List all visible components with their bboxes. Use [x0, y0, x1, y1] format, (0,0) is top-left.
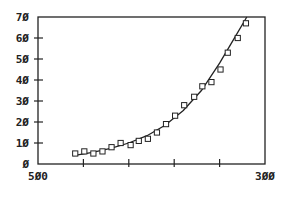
y-axis: Ø1Ø2Ø3Ø4Ø5Ø6Ø7Ø	[16, 11, 43, 171]
data-point-marker	[82, 149, 87, 154]
scatter-chart: Ø1Ø2Ø3Ø4Ø5Ø6Ø7Ø 5Ø03ØØ	[0, 0, 287, 210]
data-point-marker	[218, 67, 223, 72]
data-point-marker	[192, 94, 197, 99]
data-point-marker	[91, 151, 96, 156]
data-point-marker	[109, 145, 114, 150]
y-tick-label: 5Ø	[16, 53, 30, 66]
data-point-marker	[73, 151, 78, 156]
y-tick-label: 1Ø	[16, 137, 30, 150]
data-point-marker	[128, 143, 133, 148]
data-point-marker	[200, 84, 205, 89]
data-point-marker	[154, 130, 159, 135]
plot-border	[38, 17, 265, 164]
fitted-curve	[73, 17, 246, 156]
y-tick-label: 4Ø	[16, 74, 30, 87]
x-tick-label: 5Ø0	[28, 170, 48, 183]
data-markers	[73, 21, 249, 156]
plot-frame	[38, 17, 265, 164]
data-point-marker	[209, 80, 214, 85]
data-point-marker	[145, 136, 150, 141]
data-point-marker	[100, 149, 105, 154]
data-point-marker	[173, 113, 178, 118]
y-tick-label: 7Ø	[16, 11, 30, 24]
data-point-marker	[163, 122, 168, 127]
x-axis: 5Ø03ØØ	[28, 159, 275, 183]
data-point-marker	[243, 21, 248, 26]
y-tick-label: 3Ø	[16, 95, 30, 108]
data-point-marker	[182, 103, 187, 108]
data-point-marker	[235, 35, 240, 40]
data-point-marker	[118, 140, 123, 145]
y-tick-label: 2Ø	[16, 116, 30, 129]
x-tick-label: 3ØØ	[255, 170, 275, 183]
y-tick-label: 6Ø	[16, 32, 30, 45]
data-point-marker	[225, 50, 230, 55]
data-point-marker	[136, 138, 141, 143]
